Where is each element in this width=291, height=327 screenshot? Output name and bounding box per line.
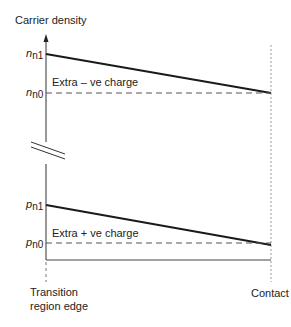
- level-p-n0: pn0: [26, 236, 43, 251]
- y-axis-arrow-icon: [44, 34, 49, 42]
- level-n-n0: nn0: [26, 86, 43, 101]
- symbol-sub: n1: [32, 50, 43, 61]
- symbol-sub: n0: [32, 89, 43, 100]
- symbol-sub: n0: [32, 239, 43, 250]
- extra-negative-charge-label: Extra – ve charge: [52, 76, 138, 89]
- transition-region-edge-label-2: region edge: [30, 300, 88, 313]
- axis-break-slash-2: [31, 147, 65, 159]
- contact-label: Contact: [251, 287, 289, 300]
- diagram-canvas: [0, 0, 291, 327]
- level-n-n1: nn1: [26, 47, 43, 62]
- extra-positive-charge-label: Extra + ve charge: [52, 227, 139, 240]
- y-axis-label: Carrier density: [15, 14, 87, 27]
- level-p-n1: pn1: [26, 198, 43, 213]
- axis-break-slash-1: [31, 142, 65, 154]
- symbol-sub: n1: [32, 201, 43, 212]
- transition-region-edge-label-1: Transition: [30, 286, 78, 299]
